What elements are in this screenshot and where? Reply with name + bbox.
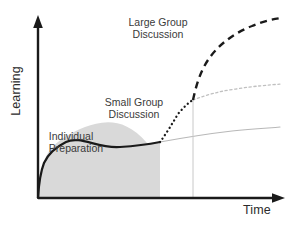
- x-axis-label: Time: [243, 203, 271, 217]
- small-group-discussion-label-line2: Discussion: [105, 108, 163, 120]
- small-group-discussion-label-line1: Small Group: [105, 96, 163, 108]
- y-axis-label: Learning: [9, 61, 23, 121]
- large-group-discussion-label-line1: Large Group: [129, 16, 188, 28]
- large-group-discussion-label-line2: Discussion: [129, 28, 188, 40]
- no-group-discussion-curve: [160, 127, 280, 142]
- large-group-discussion-curve: [193, 18, 281, 100]
- individual-preparation-label: Individual Preparation: [49, 130, 103, 154]
- x-axis-arrowhead: [272, 193, 285, 203]
- y-axis-arrowhead: [33, 15, 43, 28]
- large-group-discussion-label: Large Group Discussion: [129, 16, 188, 40]
- individual-preparation-label-line2: Preparation: [49, 142, 103, 154]
- no-large-group-curve: [193, 84, 281, 100]
- small-group-discussion-label: Small Group Discussion: [105, 96, 163, 120]
- learning-time-chart: Learning Time Individual Preparation Sma…: [0, 0, 307, 228]
- small-group-discussion-curve: [160, 100, 193, 142]
- individual-preparation-label-line1: Individual: [49, 130, 103, 142]
